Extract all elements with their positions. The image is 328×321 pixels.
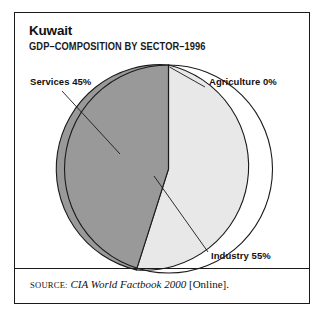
source-suffix: [Online].: [189, 278, 229, 290]
pie-chart-svg: [15, 13, 311, 305]
pie-label-industry: Industry 55%: [211, 250, 271, 261]
source-title: CIA World Factbook 2000: [70, 278, 186, 290]
pie-label-services: Services 45%: [30, 76, 91, 87]
source-line: Source: CIA World Factbook 2000 [Online]…: [30, 278, 229, 290]
figure-frame: Kuwait GDP–COMPOSITION BY SECTOR–1996 Se…: [14, 12, 310, 304]
pie-label-agriculture: Agriculture 0%: [209, 76, 277, 87]
source-divider: [15, 268, 309, 269]
source-label: Source:: [30, 280, 68, 290]
pie-chart: Services 45% Agriculture 0% Industry 55%: [15, 13, 311, 305]
